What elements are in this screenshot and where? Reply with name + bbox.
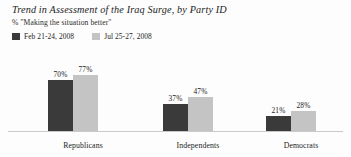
chart-subtitle: % "Making the situation better" [12, 18, 112, 27]
bar-value-republicans-series-2: 77% [79, 66, 93, 73]
bar-rect-republicans-series-1 [48, 80, 73, 131]
plot-area: 70% 77% Republicans 37% 47% [0, 46, 351, 157]
bar-rect-democrats-series-1 [266, 116, 291, 131]
bars-republicans: 70% 77% [48, 66, 98, 131]
chart-legend: Feb 21-24, 2008 Jul 25-27, 2008 [12, 32, 152, 41]
bar-rect-independents-series-1 [163, 104, 188, 131]
legend-label-series-1: Feb 21-24, 2008 [24, 32, 74, 41]
bar-group-democrats: 21% 28% Democrats [266, 46, 336, 157]
bar-democrats-series-1: 21% [266, 107, 291, 131]
bar-independents-series-1: 37% [163, 95, 188, 131]
bars-democrats: 21% 28% [266, 102, 316, 131]
bar-value-republicans-series-1: 70% [54, 71, 68, 78]
bar-independents-series-2: 47% [188, 88, 213, 131]
legend-label-series-2: Jul 25-27, 2008 [104, 32, 152, 41]
chart-container: Trend in Assessment of the Iraq Surge, b… [0, 0, 351, 157]
bar-republicans-series-2: 77% [73, 66, 98, 131]
x-axis-label-democrats: Democrats [266, 141, 336, 150]
legend-swatch-series-1 [12, 33, 20, 40]
bar-value-democrats-series-2: 28% [297, 102, 311, 109]
bar-value-independents-series-1: 37% [169, 95, 183, 102]
bar-republicans-series-1: 70% [48, 71, 73, 131]
x-axis-label-independents: Independents [163, 141, 233, 150]
bar-rect-independents-series-2 [188, 97, 213, 131]
legend-swatch-series-2 [92, 33, 100, 40]
bar-group-republicans: 70% 77% Republicans [48, 46, 118, 157]
bar-value-democrats-series-1: 21% [272, 107, 286, 114]
legend-item-series-2: Jul 25-27, 2008 [92, 32, 152, 41]
bar-rect-democrats-series-2 [291, 111, 316, 131]
legend-item-series-1: Feb 21-24, 2008 [12, 32, 74, 41]
chart-title: Trend in Assessment of the Iraq Surge, b… [12, 4, 227, 15]
x-axis-label-republicans: Republicans [48, 141, 118, 150]
bars-independents: 37% 47% [163, 88, 213, 131]
bar-value-independents-series-2: 47% [194, 88, 208, 95]
bar-group-independents: 37% 47% Independents [163, 46, 233, 157]
bar-democrats-series-2: 28% [291, 102, 316, 131]
bar-rect-republicans-series-2 [73, 75, 98, 131]
